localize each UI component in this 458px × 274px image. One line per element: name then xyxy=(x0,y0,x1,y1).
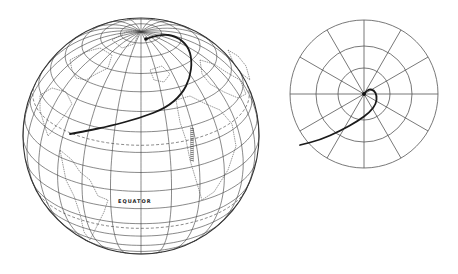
meridian-line xyxy=(111,32,142,253)
continent-outline xyxy=(60,150,108,240)
coastline-hatch xyxy=(190,132,194,133)
globe-graticule xyxy=(23,18,259,254)
coastline-hatch xyxy=(190,144,194,145)
coastline-hatch xyxy=(190,136,194,137)
continent-outline xyxy=(200,60,246,98)
coastline-hatch xyxy=(190,158,194,159)
coastline-hatch xyxy=(190,150,194,151)
meridian-line xyxy=(39,31,141,76)
north-pole-marker xyxy=(144,37,148,41)
figure-canvas: EQUATOR xyxy=(0,0,458,274)
coastline-hatch xyxy=(190,154,194,155)
polar-grid-diagram xyxy=(290,20,438,168)
polar-spoke xyxy=(300,57,364,94)
continent-outline xyxy=(70,48,112,80)
continent-outline xyxy=(228,50,250,80)
polar-spoke xyxy=(364,57,428,94)
equator-label: EQUATOR xyxy=(118,198,152,204)
polar-spoke xyxy=(300,94,364,131)
coastline-hatch xyxy=(190,140,194,141)
meridian-line xyxy=(141,32,172,253)
polar-spoke xyxy=(327,94,364,158)
continent-outline xyxy=(40,88,72,136)
coastline-hatch xyxy=(190,156,194,157)
coastline-hatch xyxy=(190,148,194,149)
polar-spoke xyxy=(364,94,401,158)
polar-spoke xyxy=(364,94,428,131)
polar-spoke xyxy=(364,30,401,94)
coastline-hatch xyxy=(190,134,194,135)
orthographic-globe: EQUATOR xyxy=(23,18,259,254)
coastline-hatch xyxy=(190,160,194,161)
coastline-hatch xyxy=(190,152,194,153)
continent-outline xyxy=(150,66,170,82)
coastline-hatch xyxy=(190,138,194,139)
polar-center-marker xyxy=(362,92,366,96)
coastline-hatch xyxy=(190,128,194,129)
coastline-hatch xyxy=(190,142,194,143)
polar-spoke xyxy=(327,30,364,94)
